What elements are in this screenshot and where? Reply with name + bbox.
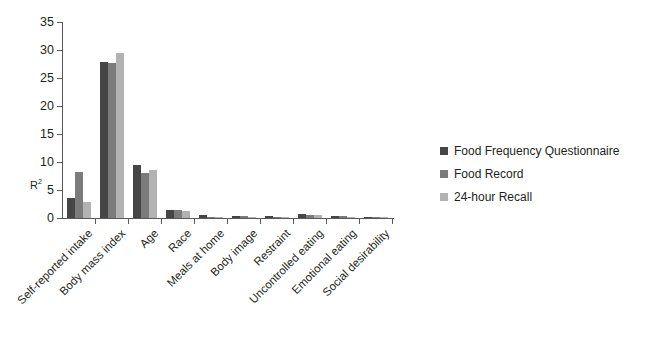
- x-axis-tick-mark: [392, 219, 393, 224]
- x-axis-tick-mark: [326, 219, 327, 224]
- bar: [298, 214, 306, 218]
- bar: [265, 216, 273, 218]
- bar: [83, 202, 91, 218]
- bar-group: [95, 22, 128, 218]
- bar-chart-figure: R2 35302520151050 Self-reported intakeBo…: [0, 0, 655, 358]
- y-axis-tick-label: 5: [24, 184, 54, 197]
- bar-group: [326, 22, 359, 218]
- legend-item-label: 24-hour Recall: [454, 191, 532, 203]
- bar: [199, 215, 207, 218]
- x-axis-tick-mark: [359, 219, 360, 224]
- legend-swatch-icon: [440, 147, 448, 155]
- bar: [116, 53, 124, 218]
- legend-swatch-icon: [440, 193, 448, 201]
- y-axis-tick-label: 35: [24, 16, 54, 29]
- bar-group: [128, 22, 161, 218]
- bar: [215, 217, 223, 218]
- y-axis-tick-label: 15: [24, 128, 54, 141]
- bar-group: [260, 22, 293, 218]
- bar: [240, 216, 248, 218]
- y-axis-tick-label: 10: [24, 156, 54, 169]
- x-axis-tick-mark: [227, 219, 228, 224]
- y-axis-tick-label: 20: [24, 100, 54, 113]
- bar: [380, 217, 388, 218]
- x-axis-tick-mark: [293, 219, 294, 224]
- bar: [182, 211, 190, 218]
- bar: [314, 215, 322, 218]
- x-axis-category-label: Uncontrolled eating: [197, 227, 326, 356]
- bar-group: [62, 22, 95, 218]
- bar: [149, 170, 157, 218]
- bar: [347, 217, 355, 218]
- legend-swatch-icon: [440, 170, 448, 178]
- y-axis-tick-label: 30: [24, 44, 54, 57]
- x-axis-tick-mark: [260, 219, 261, 224]
- x-axis-tick-marks: [62, 219, 394, 225]
- bar-group: [161, 22, 194, 218]
- bar: [273, 217, 281, 218]
- y-axis-tick-label: 0: [24, 212, 54, 225]
- bar: [372, 217, 380, 218]
- bar: [174, 210, 182, 218]
- legend-item-label: Food Record: [454, 168, 523, 180]
- x-axis-category-label: Emotional eating: [230, 227, 359, 356]
- bar: [75, 172, 83, 218]
- bar: [281, 217, 289, 218]
- bar-group: [359, 22, 392, 218]
- legend-item[interactable]: 24-hour Recall: [440, 186, 650, 207]
- bar-group: [194, 22, 227, 218]
- bar: [166, 210, 174, 218]
- legend-item[interactable]: Food Frequency Questionnaire: [440, 140, 650, 161]
- y-axis-tick-label: 25: [24, 72, 54, 85]
- bar-group: [227, 22, 260, 218]
- bar: [339, 216, 347, 218]
- chart-legend: Food Frequency QuestionnaireFood Record2…: [440, 140, 650, 209]
- bar: [232, 216, 240, 218]
- x-axis-tick-mark: [95, 219, 96, 224]
- bar: [248, 217, 256, 218]
- x-axis-tick-mark: [194, 219, 195, 224]
- x-axis-category-label: Social desirability: [263, 227, 392, 356]
- bar: [108, 63, 116, 218]
- bar-group: [293, 22, 326, 218]
- x-axis-tick-mark: [161, 219, 162, 224]
- bar: [141, 173, 149, 218]
- x-axis-tick-mark: [128, 219, 129, 224]
- plot-area: [62, 22, 392, 218]
- bar: [100, 62, 108, 218]
- bar: [364, 217, 372, 218]
- legend-item[interactable]: Food Record: [440, 163, 650, 184]
- bar: [207, 217, 215, 218]
- bar: [133, 165, 141, 218]
- bar: [67, 198, 75, 218]
- bar: [306, 215, 314, 218]
- legend-item-label: Food Frequency Questionnaire: [454, 145, 619, 157]
- bar: [331, 216, 339, 218]
